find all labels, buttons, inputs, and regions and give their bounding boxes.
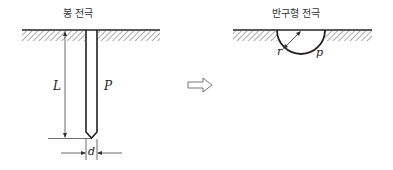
hemisphere-electrode-title: 반구형 전극 [272,5,320,20]
arrowhead-down-icon [63,133,67,138]
radius-line [285,33,299,47]
electrode-diagram: 봉 전극 L P d 반구형 전극 r p [0,0,393,170]
rod-electrode-figure [22,30,160,160]
hemisphere-potential-label: p [316,46,323,59]
rod-potential-label: P [104,79,112,93]
ground-hatch-right [98,31,160,41]
hollow-right-arrow-icon [188,78,212,92]
length-label: L [53,79,61,93]
ground-hatch-left [22,31,85,41]
radius-label: r [277,45,282,58]
arrowhead-left-icon [97,151,102,155]
ground-hatch-right [325,31,372,41]
arrowhead-right-icon [81,151,86,155]
rod-electrode-title: 봉 전극 [63,5,93,20]
ground-hatch-left [233,31,277,41]
rod-body [86,30,97,138]
diameter-label: d [88,145,95,158]
hemisphere-electrode-figure [233,30,372,54]
